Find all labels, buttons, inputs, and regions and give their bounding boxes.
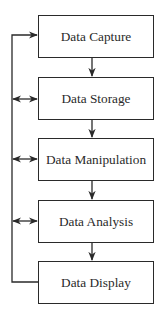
node-data-display: Data Display [38,261,154,304]
node-data-manipulation: Data Manipulation [38,138,154,181]
node-data-analysis: Data Analysis [38,200,154,243]
flowchart-diagram: Data Capture Data Storage Data Manipulat… [0,0,163,319]
node-label: Data Manipulation [46,152,146,168]
node-data-capture: Data Capture [38,15,154,58]
node-label: Data Capture [61,29,132,45]
node-data-storage: Data Storage [38,77,154,120]
node-label: Data Analysis [59,214,133,230]
node-label: Data Display [61,275,131,291]
node-label: Data Storage [61,91,130,107]
